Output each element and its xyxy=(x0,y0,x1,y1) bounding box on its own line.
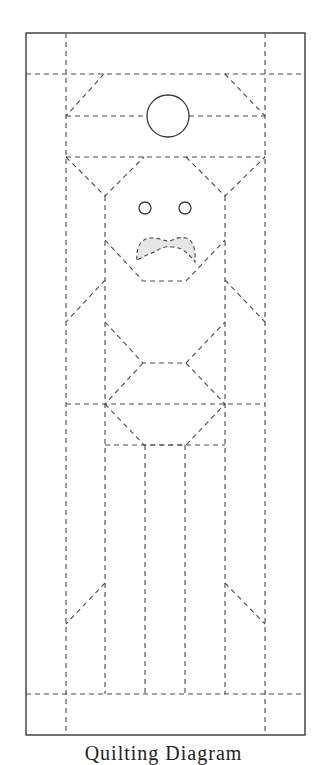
right-arm-diagonal xyxy=(225,280,265,322)
hip-hexagon xyxy=(105,404,225,445)
outer-border xyxy=(26,33,305,735)
left-arm-diagonal xyxy=(66,280,105,322)
left-foot-diagonal xyxy=(66,583,105,624)
waist-lower-right xyxy=(186,363,225,404)
mustache-icon xyxy=(137,238,195,262)
right-shoulder-v xyxy=(186,157,265,196)
left-eye-icon xyxy=(139,202,151,214)
head-top-right-diagonal xyxy=(225,74,265,116)
left-shoulder-v xyxy=(66,157,144,196)
waist-upper-hexagon xyxy=(105,322,225,363)
waist-lower-left xyxy=(105,363,143,404)
sun-circle xyxy=(147,95,189,137)
right-foot-diagonal xyxy=(225,583,265,624)
head-top-left-diagonal xyxy=(66,74,104,116)
diagram-caption: Quilting Diagram xyxy=(0,742,327,765)
right-eye-icon xyxy=(179,202,191,214)
